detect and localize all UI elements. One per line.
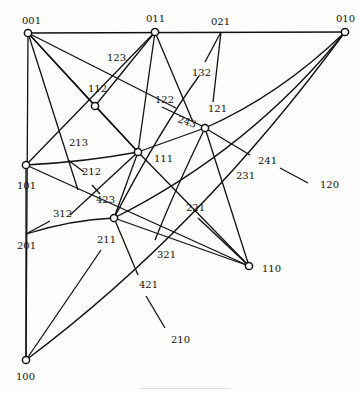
edge-label-210: 210 <box>171 334 190 345</box>
edge-011-121 <box>155 32 193 122</box>
edge-001-010 <box>28 32 345 33</box>
edge-111-312 <box>70 152 138 215</box>
edge-label-423: 423 <box>96 194 115 205</box>
edge-label-201: 201 <box>17 240 36 251</box>
vertex-label-001: 001 <box>22 15 41 26</box>
edge-001-211 <box>28 33 78 190</box>
edge-labels: 0211231321222432132124233122012412311202… <box>17 16 339 345</box>
vertex-112 <box>91 102 98 109</box>
edge-label-243: 243 <box>176 113 198 129</box>
edge-label-123: 123 <box>107 52 126 63</box>
vertex-label-011: 011 <box>146 13 165 24</box>
edge-121-211 <box>155 128 205 240</box>
edge-label-312: 312 <box>53 208 72 219</box>
vertex-001 <box>24 29 31 36</box>
edge-label-122: 122 <box>155 94 174 105</box>
edge-label-321: 321 <box>157 249 176 260</box>
vertex-100 <box>22 356 29 363</box>
edges <box>26 32 345 360</box>
vertex-label-010: 010 <box>336 13 355 24</box>
vertex-121 <box>201 124 208 131</box>
edge-201-211 <box>26 218 114 234</box>
vertex-label-100: 100 <box>16 371 35 382</box>
vertices <box>22 28 348 363</box>
edge-label-021: 021 <box>211 16 230 27</box>
vertex-label-121: 121 <box>208 103 227 114</box>
graph-diagram: 001011010112121111101211110100 021123132… <box>0 0 358 395</box>
edge-label-221: 221 <box>186 202 205 213</box>
edge-label-212: 212 <box>82 166 101 177</box>
edge-021-121 <box>213 32 221 102</box>
vertex-110 <box>245 262 252 269</box>
vertex-label-112: 112 <box>88 83 107 94</box>
edge-211-100 <box>26 250 101 360</box>
edge-101-111 <box>26 152 138 165</box>
vertex-label-110: 110 <box>262 263 281 274</box>
vertex-211 <box>110 214 117 221</box>
vertex-label-211: 211 <box>97 234 116 245</box>
edge-label-120: 120 <box>320 179 339 190</box>
edge-211-421 <box>114 218 138 275</box>
edge-010-211 <box>114 32 345 218</box>
vertex-101 <box>22 161 29 168</box>
vertex-011 <box>151 28 158 35</box>
edge-120-stub <box>280 168 308 183</box>
vertex-label-111: 111 <box>154 153 173 164</box>
edge-010-100 <box>26 32 345 360</box>
caption-cutoff <box>140 388 230 389</box>
edge-label-231: 231 <box>236 170 255 181</box>
edge-label-421: 421 <box>139 279 158 290</box>
edge-421-210 <box>146 296 165 328</box>
edge-112-111 <box>95 106 138 152</box>
edge-label-132: 132 <box>192 67 211 78</box>
vertex-010 <box>341 28 348 35</box>
vertex-label-101: 101 <box>17 180 36 191</box>
edge-label-213: 213 <box>69 137 88 148</box>
edge-label-241: 241 <box>258 155 277 166</box>
vertex-111 <box>134 148 141 155</box>
